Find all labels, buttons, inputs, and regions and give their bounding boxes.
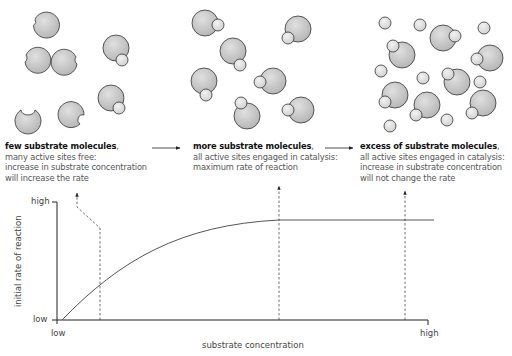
- caption-line: maximum rate of reaction: [193, 162, 338, 173]
- enzyme-substrate-complex-icon: [191, 68, 217, 101]
- enzyme-substrate-complex-icon: [234, 97, 260, 129]
- caption-line: increase in substrate concentration: [5, 162, 147, 173]
- caption-title: excess of substrate molecules: [360, 141, 497, 151]
- caption-line: will increase the rate: [5, 173, 147, 184]
- caption-line: will not change the rate: [360, 173, 505, 184]
- y-low-label: low: [33, 314, 48, 324]
- enzyme-substrate-complex-icon: [220, 38, 246, 71]
- x-axis-title: substrate concentration: [202, 340, 304, 350]
- enzyme-substrate-complex-icon: [379, 82, 408, 108]
- graph: [52, 186, 434, 325]
- enzyme-substrate-complex-icon: [387, 40, 415, 68]
- caption-few: few substrate molecules, many active sit…: [5, 141, 147, 183]
- pointer-few: [77, 193, 100, 320]
- enzyme-icon: [25, 47, 51, 73]
- enzyme-substrate-complex-icon: [466, 90, 496, 119]
- caption-title: few substrate molecules: [5, 141, 116, 151]
- enzyme-substrate-complex-icon: [282, 97, 314, 123]
- caption-line: many active sites free:: [5, 152, 147, 163]
- enzyme-icon: [34, 12, 60, 38]
- enzyme-substrate-complex-icon: [430, 25, 461, 51]
- enzyme-icon: [15, 110, 41, 134]
- x-high-label: high: [420, 328, 439, 338]
- enzyme-substrate-complex-icon: [192, 10, 224, 36]
- caption-line: increase in substrate concentration: [360, 162, 505, 173]
- rate-curve: [62, 220, 434, 320]
- panel-excess-substrate-molecules: [375, 17, 503, 132]
- enzyme-substrate-complex-icon: [103, 35, 129, 66]
- enzyme-substrate-complex-icon: [254, 68, 286, 94]
- enzyme-icon: [51, 49, 77, 75]
- panel-few-substrate-molecules: [15, 12, 129, 134]
- caption-more: more substrate molecules, all active sit…: [193, 141, 338, 173]
- y-axis-title: initial rate of reaction: [13, 215, 23, 307]
- enzyme-substrate-complex-icon: [442, 68, 470, 95]
- enzyme-substrate-complex-icon: [410, 92, 440, 121]
- caption-line: all active sites engaged in catalysis:: [193, 152, 338, 163]
- caption-excess: excess of substrate molecules, all activ…: [360, 141, 505, 183]
- enzyme-substrate-complex-icon: [98, 85, 125, 114]
- y-high-label: high: [31, 196, 50, 206]
- caption-title: more substrate molecules: [193, 141, 311, 151]
- enzyme-substrate-complex-icon: [471, 45, 503, 71]
- enzyme-substrate-complex-icon: [282, 16, 311, 44]
- panel-more-substrate-molecules: [191, 10, 314, 129]
- x-low-label: low: [51, 328, 66, 338]
- enzyme-icon: [58, 102, 84, 128]
- caption-line: all active sites engaged in catalysis:: [360, 152, 505, 163]
